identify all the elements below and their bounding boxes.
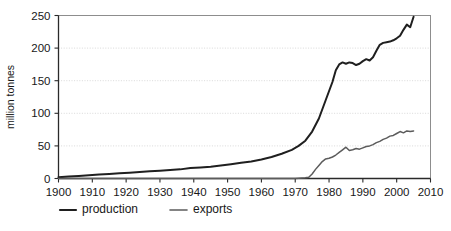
x-tick-label: 1950 [215,186,241,198]
legend-label-production: production [82,202,138,216]
x-tick-label: 2010 [418,186,444,198]
series-line-exports [59,131,414,179]
line-chart-figure: 050100150200250 190019101920193019401950… [0,0,451,231]
x-tick-label: 1980 [316,186,342,198]
y-axis-ticks: 050100150200250 [31,10,58,185]
x-tick-label: 1990 [350,186,376,198]
x-tick-label: 1930 [147,186,173,198]
series-line-production [59,17,414,177]
plot-area-frame [59,16,431,179]
x-axis-ticks: 1900191019201930194019501960197019801990… [46,179,444,198]
y-axis: 050100150200250 [31,10,58,185]
y-tick-label: 0 [44,173,50,185]
legend-label-exports: exports [193,202,232,216]
y-tick-label: 100 [31,107,50,119]
y-tick-label: 250 [31,10,50,22]
x-tick-label: 1920 [113,186,139,198]
y-tick-label: 150 [31,75,50,87]
y-tick-label: 200 [31,42,50,54]
chart-legend: productionexports [60,202,232,216]
x-axis: 1900191019201930194019501960197019801990… [46,179,444,198]
x-tick-label: 1940 [181,186,207,198]
x-tick-label: 2000 [384,186,410,198]
data-series-group [59,17,414,179]
chart-canvas: 050100150200250 190019101920193019401950… [0,0,451,231]
x-tick-label: 1960 [249,186,275,198]
grid-lines [59,16,431,146]
y-axis-title: million tonnes [4,65,16,129]
x-tick-label: 1910 [80,186,106,198]
x-tick-label: 1970 [282,186,308,198]
y-tick-label: 50 [38,140,51,152]
x-tick-label: 1900 [46,186,72,198]
